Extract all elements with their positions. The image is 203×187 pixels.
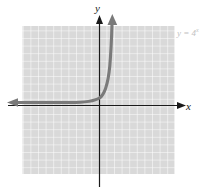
curve-equation-label: y = 4 x xyxy=(176,27,199,38)
x-axis-label: x xyxy=(185,100,191,112)
exponential-function-graph: x y y = 4 x xyxy=(0,0,203,187)
curve-equation-base: y = 4 xyxy=(176,28,197,38)
y-axis-label: y xyxy=(94,2,100,14)
curve-equation-exponent: x xyxy=(195,27,199,33)
